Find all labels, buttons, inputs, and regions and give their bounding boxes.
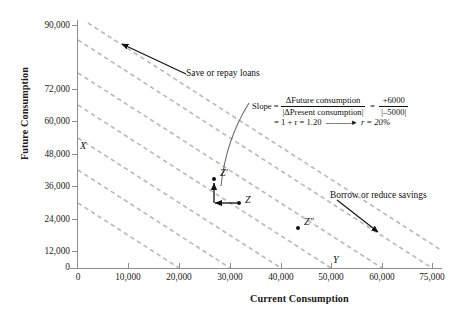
budget-line-7 bbox=[88, 23, 441, 250]
x-tick-50000 bbox=[331, 263, 332, 269]
point-label-X: X bbox=[80, 140, 86, 151]
save-arrow bbox=[122, 44, 186, 74]
point-label-Y: Y bbox=[333, 254, 339, 265]
point-label-Z: Z bbox=[245, 194, 251, 205]
slope-formula-lead: Slope = bbox=[252, 102, 279, 112]
figure-budget-constraint: 90,000 72,000 60,000 48,000 36,000 24,00… bbox=[0, 0, 461, 331]
slope-denominator-2: |–5000| bbox=[379, 106, 408, 117]
y-tick-label-90000: 90,000 bbox=[8, 20, 70, 30]
slope-fraction-2: +6000 |–5000| bbox=[379, 96, 408, 117]
y-tick-12000 bbox=[72, 251, 78, 252]
point-label-Z-prime: Z′ bbox=[220, 167, 228, 178]
y-tick-label-48000: 48,000 bbox=[8, 149, 70, 159]
slope-result-left: = 1 + r = 1.20 bbox=[274, 117, 321, 127]
budget-line-2 bbox=[78, 170, 230, 268]
slope-fraction-1: ΔFuture consumption |ΔPresent consumptio… bbox=[281, 96, 366, 117]
x-tick-30000 bbox=[230, 263, 231, 269]
x-axis-title: Current Consumption bbox=[250, 293, 349, 304]
slope-numerator-2: +6000 bbox=[381, 96, 407, 106]
y-tick-48000 bbox=[72, 154, 78, 155]
y-tick-36000 bbox=[72, 186, 78, 187]
budget-line-1 bbox=[78, 203, 179, 268]
slope-numerator-1: ΔFuture consumption bbox=[284, 96, 363, 106]
slope-formula-line1: Slope = ΔFuture consumption |ΔPresent co… bbox=[252, 96, 410, 117]
annotation-save-or-repay-loans: Save or repay loans bbox=[186, 68, 260, 78]
x-tick-label-75000: 75,000 bbox=[402, 272, 461, 282]
y-tick-label-12000: 12,000 bbox=[8, 246, 70, 256]
slope-arrow-icon: ———▸ bbox=[324, 117, 359, 127]
budget-line-group bbox=[78, 23, 441, 268]
slope-formula: Slope = ΔFuture consumption |ΔPresent co… bbox=[252, 96, 410, 128]
x-axis-line bbox=[70, 268, 442, 269]
y-axis-line bbox=[77, 20, 78, 269]
y-tick-label-60000: 60,000 bbox=[8, 116, 70, 126]
y-tick-90000 bbox=[72, 25, 78, 26]
slope-result-right: r = 20% bbox=[361, 117, 390, 127]
y-tick-60000 bbox=[72, 121, 78, 122]
x-tick-60000 bbox=[382, 263, 383, 269]
point-label-Z-double-prime: Z″ bbox=[304, 216, 314, 227]
slope-denominator-1: |ΔPresent consumption| bbox=[281, 106, 366, 117]
y-tick-label-72000: 72,000 bbox=[8, 84, 70, 94]
x-tick-10000 bbox=[128, 263, 129, 269]
slope-formula-line2: = 1 + r = 1.20 ———▸ r = 20% bbox=[252, 118, 410, 128]
y-tick-label-0: 0 bbox=[8, 262, 70, 272]
y-tick-label-24000: 24,000 bbox=[8, 214, 70, 224]
x-tick-75000 bbox=[432, 263, 433, 269]
x-tick-40000 bbox=[281, 263, 282, 269]
annotation-borrow-or-reduce-savings: Borrow or reduce savings bbox=[330, 190, 427, 200]
slope-equals-1: = bbox=[367, 102, 377, 112]
y-axis-title: Future Consumption bbox=[19, 44, 30, 184]
budget-line-XY bbox=[78, 105, 331, 268]
y-tick-72000 bbox=[72, 89, 78, 90]
y-tick-label-36000: 36,000 bbox=[8, 181, 70, 191]
x-tick-20000 bbox=[179, 263, 180, 269]
y-tick-24000 bbox=[72, 219, 78, 220]
